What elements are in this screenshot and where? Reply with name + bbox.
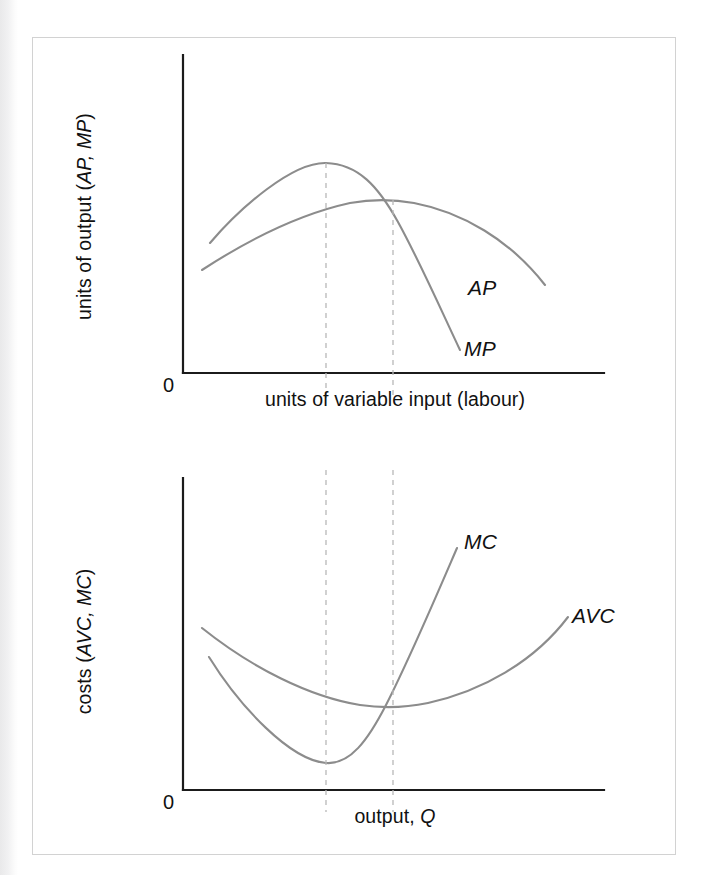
- bottom-origin-label: 0: [163, 791, 174, 814]
- bottom-y-axis-title: costs (AVC, MC): [73, 508, 96, 776]
- bottom-x-axis-title-text: output,: [354, 805, 420, 827]
- curve-label-mp: MP: [464, 337, 496, 361]
- top-y-axis-title-symbols: AP, MP: [73, 120, 95, 184]
- top-y-axis-title: units of output (AP, MP): [73, 67, 96, 367]
- bottom-y-axis-title-text: costs (: [73, 656, 95, 714]
- curve-label-mc: MC: [464, 530, 497, 554]
- top-x-axis-title: units of variable input (labour): [175, 388, 615, 411]
- curve-label-avc: AVC: [572, 604, 615, 628]
- top-y-axis-title-close: ): [73, 113, 95, 120]
- cropped-caption-remnant: [150, 0, 570, 6]
- top-y-axis-title-text: units of output (: [73, 184, 95, 320]
- bottom-y-axis-title-symbols: AVC, MC: [73, 575, 95, 656]
- curve-label-ap: AP: [468, 276, 497, 300]
- bottom-x-axis-title: output, Q: [180, 805, 610, 828]
- page-edge-shadow: [0, 0, 18, 875]
- bottom-y-axis-title-close: ): [73, 569, 95, 576]
- top-origin-label: 0: [163, 374, 174, 397]
- figure-frame: [32, 37, 676, 855]
- bottom-x-axis-title-symbol: Q: [420, 805, 435, 827]
